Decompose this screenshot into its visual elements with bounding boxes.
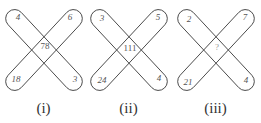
- top-right-value: 6: [68, 12, 73, 22]
- center-value: 111: [124, 43, 137, 53]
- figure-caption: (i): [0, 100, 87, 117]
- bottom-left-value: 21: [184, 77, 193, 87]
- figure-i: 4 6 78 18 3 (i): [0, 0, 87, 123]
- figure-iii: 2 7 ? 21 4 (iii): [172, 0, 259, 123]
- top-left-value: 3: [100, 13, 105, 23]
- top-left-value: 2: [187, 14, 192, 24]
- figure-caption: (ii): [85, 100, 172, 117]
- top-right-value: 5: [156, 12, 161, 22]
- bottom-left-value: 18: [12, 74, 21, 84]
- top-left-value: 4: [16, 12, 21, 22]
- top-right-value: 7: [243, 12, 248, 22]
- figure-caption: (iii): [172, 100, 259, 117]
- center-value: ?: [215, 42, 219, 52]
- center-value: 78: [41, 41, 50, 51]
- bottom-right-value: 4: [244, 75, 249, 85]
- bottom-right-value: 4: [157, 73, 162, 83]
- figure-ii: 3 5 111 24 4 (ii): [85, 0, 172, 123]
- bottom-right-value: 3: [73, 74, 78, 84]
- bottom-left-value: 24: [98, 75, 107, 85]
